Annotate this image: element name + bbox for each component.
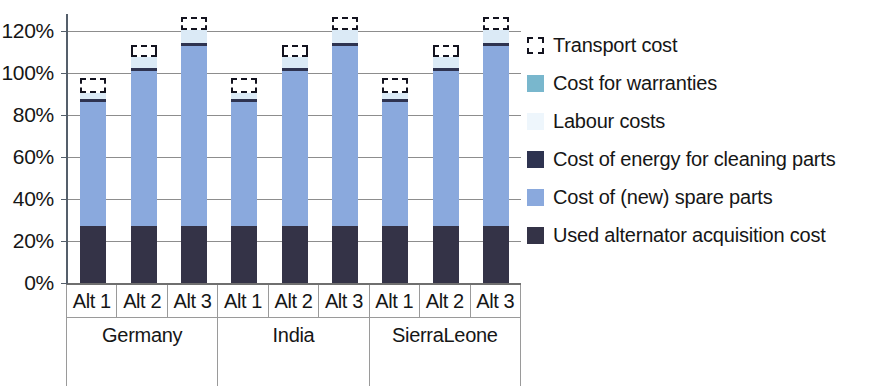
bar-segment-energy [131, 68, 157, 71]
y-axis: 120%100%80%60%40%20%0% [0, 0, 62, 300]
bar-segment-labour [231, 93, 257, 99]
energy-swatch-icon [527, 151, 544, 168]
bar-segment-transport [332, 17, 358, 30]
bar-segment-labour [131, 57, 157, 68]
y-axis-tick-label: 20% [13, 230, 54, 251]
bar[interactable] [332, 14, 358, 283]
country-label-row: GermanyIndiaSierraLeone [66, 318, 521, 386]
legend-item[interactable]: Labour costs [527, 102, 879, 140]
bar[interactable] [181, 14, 207, 283]
bar-segment-spare-parts [282, 71, 308, 226]
bar-segment-energy [181, 43, 207, 46]
bar-segment-labour [181, 30, 207, 43]
alternative-label-row: Alt 1Alt 2Alt 3Alt 1Alt 2Alt 3Alt 1Alt 2… [66, 285, 521, 318]
bar-segment-used-alternator [382, 226, 408, 283]
legend-item-label: Used alternator acquisition cost [553, 224, 826, 246]
alt-label-cell: Alt 3 [168, 285, 218, 318]
bar-segment-transport [80, 78, 106, 93]
y-axis-tick-mark [61, 31, 68, 32]
y-axis-tick-label: 120% [1, 20, 54, 41]
bar-segment-energy [382, 99, 408, 102]
bar-segment-labour [382, 93, 408, 99]
category-axis: Alt 1Alt 2Alt 3Alt 1Alt 2Alt 3Alt 1Alt 2… [66, 284, 521, 385]
used-alternator-swatch-icon [527, 227, 544, 244]
bar-segment-transport [231, 78, 257, 93]
bar-segment-transport [483, 17, 509, 30]
y-axis-tick-mark [61, 157, 68, 158]
country-label-cell: India [218, 318, 369, 386]
legend-item[interactable]: Cost of energy for cleaning parts [527, 140, 879, 178]
bar-segment-used-alternator [131, 226, 157, 283]
bar-segment-transport [282, 45, 308, 58]
legend-item-label: Cost of energy for cleaning parts [553, 148, 835, 170]
alt-label-cell: Alt 3 [471, 285, 521, 318]
bar-segment-spare-parts [483, 46, 509, 227]
bar-segment-transport [382, 78, 408, 93]
bar-segment-spare-parts [433, 71, 459, 226]
y-axis-tick-mark [61, 199, 68, 200]
bar-segment-transport [131, 45, 157, 58]
bar-segment-spare-parts [382, 102, 408, 226]
bar-segment-energy [80, 99, 106, 102]
bar-segment-used-alternator [181, 226, 207, 283]
bar[interactable] [131, 14, 157, 283]
bar-segment-energy [332, 43, 358, 46]
alt-label-cell: Alt 1 [370, 285, 420, 318]
legend-item-label: Transport cost [553, 34, 677, 56]
bar-segment-labour [80, 93, 106, 99]
labour-swatch-icon [527, 113, 544, 130]
bar-segment-transport [433, 45, 459, 58]
alt-label-cell: Alt 2 [420, 285, 470, 318]
legend-item[interactable]: Cost of (new) spare parts [527, 178, 879, 216]
bar[interactable] [483, 14, 509, 283]
alt-label-cell: Alt 1 [66, 285, 117, 318]
bar-segment-labour [282, 57, 308, 68]
legend-item-label: Cost of (new) spare parts [553, 186, 773, 208]
country-label-cell: Germany [66, 318, 218, 386]
bar-segment-labour [483, 30, 509, 43]
bar-segment-used-alternator [282, 226, 308, 283]
spare-parts-swatch-icon [527, 189, 544, 206]
alt-label-cell: Alt 2 [269, 285, 319, 318]
bar[interactable] [231, 14, 257, 283]
bar-segment-transport [181, 17, 207, 30]
bar-segment-spare-parts [131, 71, 157, 226]
legend-item[interactable]: Used alternator acquisition cost [527, 216, 879, 254]
bar-segment-spare-parts [181, 46, 207, 227]
plot-area [66, 14, 519, 283]
bar-segment-spare-parts [80, 102, 106, 226]
alt-label-cell: Alt 2 [117, 285, 167, 318]
y-axis-tick-label: 80% [13, 104, 54, 125]
bar-segment-used-alternator [433, 226, 459, 283]
bar-segment-energy [483, 43, 509, 46]
bar-segment-energy [433, 68, 459, 71]
bar-segment-spare-parts [332, 46, 358, 227]
bar[interactable] [433, 14, 459, 283]
legend-item-label: Labour costs [553, 110, 665, 132]
bar[interactable] [382, 14, 408, 283]
bar-segment-used-alternator [483, 226, 509, 283]
y-axis-tick-mark [61, 115, 68, 116]
y-axis-tick-label: 40% [13, 188, 54, 209]
country-label-cell: SierraLeone [370, 318, 521, 386]
chart-legend: Transport costCost for warrantiesLabour … [527, 26, 879, 254]
warranty-swatch-icon [527, 75, 544, 92]
bar-segment-spare-parts [231, 102, 257, 226]
country-label-line1: Germany [102, 324, 182, 347]
alt-label-cell: Alt 1 [218, 285, 268, 318]
legend-item[interactable]: Transport cost [527, 26, 879, 64]
y-axis-tick-label: 0% [24, 272, 54, 293]
y-axis-tick-label: 100% [1, 62, 54, 83]
bar-segment-used-alternator [231, 226, 257, 283]
bar[interactable] [282, 14, 308, 283]
legend-item[interactable]: Cost for warranties [527, 64, 879, 102]
transport-swatch-icon [527, 37, 544, 54]
bar-segment-used-alternator [332, 226, 358, 283]
y-axis-tick-mark [61, 241, 68, 242]
bars-layer [68, 14, 519, 283]
y-axis-tick-label: 60% [13, 146, 54, 167]
bar[interactable] [80, 14, 106, 283]
legend-item-label: Cost for warranties [553, 72, 717, 94]
country-label-line2: Leone [444, 324, 498, 347]
